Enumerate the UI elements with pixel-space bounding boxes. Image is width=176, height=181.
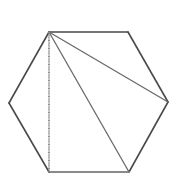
diagonal-AC (49, 32, 168, 102)
hexagon-figure (0, 0, 176, 181)
hexagon-edge-FA (9, 32, 49, 103)
hexagon-edge-CD (129, 102, 168, 172)
hexagon-edge-BC (128, 32, 168, 102)
hexagon-diagram (0, 0, 176, 181)
diagonal-AD (49, 32, 129, 172)
diagonals-group (9, 32, 168, 172)
hexagon-edge-EF (9, 103, 49, 172)
